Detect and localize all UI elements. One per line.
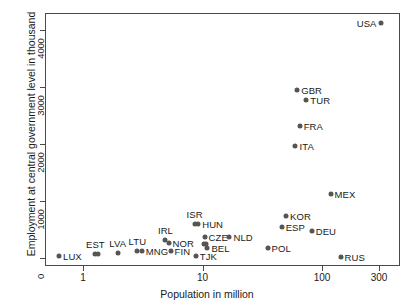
- data-point: [293, 144, 298, 149]
- data-point: [338, 254, 343, 259]
- data-point: [227, 234, 232, 239]
- data-point: [265, 246, 270, 251]
- data-point-label: HUN: [202, 219, 223, 230]
- data-point-label: MNG: [146, 246, 168, 257]
- data-point: [202, 234, 207, 239]
- data-point-label: USA: [357, 18, 377, 29]
- x-tick-mark: [322, 266, 323, 271]
- data-point-label: FRA: [304, 120, 323, 131]
- y-axis-title: Employment at central government level i…: [25, 9, 37, 259]
- data-point: [95, 252, 100, 257]
- data-point-label: NLD: [233, 231, 252, 242]
- data-point: [284, 213, 289, 218]
- data-point: [57, 253, 62, 258]
- data-point: [168, 248, 173, 253]
- x-tick-label: 300: [371, 272, 388, 283]
- data-point: [297, 123, 302, 128]
- data-point-label: FIN: [175, 245, 191, 256]
- x-tick-label: 1: [80, 272, 86, 283]
- data-point-label: ESP: [286, 222, 305, 233]
- data-point-label: RUS: [345, 251, 365, 262]
- data-point-label: LTU: [129, 236, 147, 247]
- data-point: [166, 240, 171, 245]
- data-point-label: POL: [272, 243, 291, 254]
- data-point-label: BEL: [211, 243, 229, 254]
- data-point-label: MEX: [335, 188, 356, 199]
- x-tick-mark: [379, 266, 380, 271]
- data-point-label: DEU: [316, 226, 336, 237]
- data-point-label: LUX: [63, 250, 82, 261]
- data-point: [328, 191, 333, 196]
- data-point-label: EST: [86, 239, 105, 250]
- data-point: [139, 249, 144, 254]
- data-point-label: CZE: [209, 231, 228, 242]
- data-point: [295, 87, 300, 92]
- data-point: [205, 246, 210, 251]
- x-tick-mark: [203, 266, 204, 271]
- data-point: [378, 21, 383, 26]
- data-point-label: KOR: [290, 210, 311, 221]
- data-point-label: ITA: [299, 141, 313, 152]
- data-point-label: IRL: [158, 225, 173, 236]
- data-point: [309, 229, 314, 234]
- scatter-plot-figure: 01000200030004000 110100300 LUXESTLVALTU…: [0, 0, 414, 307]
- x-axis-title: Population in million: [0, 288, 414, 300]
- x-tick-label: 100: [314, 272, 331, 283]
- data-point: [304, 97, 309, 102]
- data-point-label: LVA: [109, 238, 126, 249]
- data-point: [279, 225, 284, 230]
- data-point-label: TUR: [310, 94, 330, 105]
- data-point: [115, 250, 120, 255]
- x-tick-mark: [83, 266, 84, 271]
- data-point: [193, 253, 198, 258]
- data-point: [196, 222, 201, 227]
- data-point-label: ISR: [187, 209, 203, 220]
- x-tick-label: 10: [197, 272, 208, 283]
